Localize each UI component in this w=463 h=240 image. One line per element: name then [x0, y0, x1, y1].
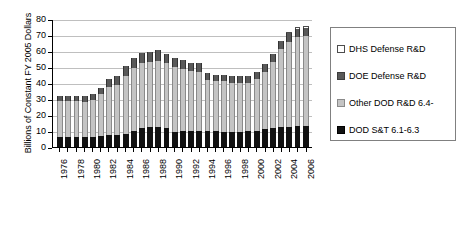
x-label-slot	[113, 153, 121, 201]
x-label-slot	[228, 153, 236, 201]
stacked-bar[interactable]	[172, 58, 178, 147]
stacked-bar[interactable]	[147, 52, 153, 147]
bar-slot	[72, 20, 80, 147]
legend-label: DHS Defense R&D	[349, 44, 426, 54]
stacked-bar[interactable]	[188, 63, 194, 147]
x-label-slot: 1992	[187, 153, 195, 201]
x-label-slot: 2006	[302, 153, 310, 201]
bar-segment	[295, 29, 301, 37]
legend-item[interactable]: DHS Defense R&D	[337, 35, 455, 62]
y-tick-mark	[48, 52, 52, 53]
stacked-bar[interactable]	[303, 26, 309, 147]
bar-segment	[205, 73, 211, 80]
bar-segment	[205, 80, 211, 131]
bar-segment	[155, 127, 161, 147]
bar-segment	[123, 76, 129, 134]
stacked-bar[interactable]	[90, 94, 96, 147]
stacked-bar[interactable]	[114, 76, 120, 147]
stacked-bar[interactable]	[74, 96, 80, 148]
bar-segment	[221, 132, 227, 147]
bar-segment	[147, 62, 153, 127]
bar-segment	[90, 100, 96, 137]
stacked-bar[interactable]	[131, 58, 137, 147]
stacked-bar[interactable]	[237, 76, 243, 147]
stacked-bar[interactable]	[57, 96, 63, 147]
bar-slot	[253, 20, 261, 147]
stacked-bar[interactable]	[213, 75, 219, 147]
x-label-slot: 1990	[170, 153, 178, 201]
stacked-bar[interactable]	[82, 96, 88, 147]
x-label-slot: 1986	[137, 153, 145, 201]
legend-item[interactable]: Other DOD R&D 6.4-	[337, 89, 455, 116]
y-tick-label: 0	[24, 143, 46, 152]
y-tick-mark	[48, 116, 52, 117]
legend-label: Other DOD R&D 6.4-	[349, 98, 434, 108]
stacked-bar[interactable]	[180, 60, 186, 147]
x-label-slot: 1976	[55, 153, 63, 201]
stacked-bar[interactable]	[106, 79, 112, 147]
stacked-bar[interactable]	[155, 50, 161, 147]
chart-legend: DHS Defense R&DDOE Defense R&DOther DOD …	[330, 27, 456, 141]
bar-segment	[147, 127, 153, 147]
stacked-bar[interactable]	[164, 54, 170, 147]
bar-segment	[139, 128, 145, 147]
y-tick-mark	[48, 68, 52, 69]
legend-swatch-icon	[337, 126, 345, 134]
bar-segment	[82, 102, 88, 138]
bar-segment	[147, 52, 153, 62]
bar-segment	[180, 60, 186, 69]
x-label-slot	[178, 153, 186, 201]
bar-segment	[229, 132, 235, 147]
bar-segment	[172, 67, 178, 132]
stacked-bar[interactable]	[221, 75, 227, 147]
stacked-bar[interactable]	[295, 27, 301, 147]
bar-segment	[196, 63, 202, 72]
bar-segment	[286, 42, 292, 127]
y-tick-label: 30	[24, 95, 46, 104]
stacked-bar[interactable]	[196, 63, 202, 147]
bar-segment	[286, 127, 292, 147]
bar-segment	[262, 72, 268, 130]
stacked-bar[interactable]	[98, 88, 104, 148]
x-label-slot	[96, 153, 104, 201]
bar-segment	[237, 83, 243, 132]
x-label-slot: 1996	[219, 153, 227, 201]
bar-segment	[98, 136, 104, 147]
bar-segment	[82, 137, 88, 147]
stacked-bar[interactable]	[270, 54, 276, 147]
y-tick-mark	[48, 20, 52, 21]
bar-segment	[114, 76, 120, 85]
stacked-bar[interactable]	[286, 32, 292, 147]
legend-item[interactable]: DOD S&T 6.1-6.3	[337, 116, 455, 143]
stacked-bar[interactable]	[139, 53, 145, 147]
stacked-bar[interactable]	[254, 72, 260, 147]
stacked-bar[interactable]	[229, 76, 235, 147]
x-label-slot	[195, 153, 203, 201]
stacked-bar[interactable]	[262, 64, 268, 147]
legend-item[interactable]: DOE Defense R&D	[337, 62, 455, 89]
bar-segment	[254, 131, 260, 147]
bar-slot	[154, 20, 162, 147]
stacked-bar[interactable]	[123, 66, 129, 147]
bar-group	[53, 20, 312, 147]
bar-slot	[203, 20, 211, 147]
bar-segment	[295, 126, 301, 147]
x-label-slot	[80, 153, 88, 201]
stacked-bar[interactable]	[278, 41, 284, 147]
x-label-slot	[277, 153, 285, 201]
bar-slot	[56, 20, 64, 147]
bar-segment	[270, 62, 276, 128]
stacked-bar[interactable]	[205, 73, 211, 147]
bar-segment	[164, 54, 170, 63]
bar-segment	[90, 137, 96, 147]
bar-slot	[228, 20, 236, 147]
bar-segment	[123, 66, 129, 76]
bar-segment	[270, 128, 276, 147]
stacked-bar[interactable]	[245, 76, 251, 147]
bar-segment	[229, 76, 235, 83]
y-tick-label: 40	[24, 79, 46, 88]
bar-segment	[106, 87, 112, 135]
y-tick-label: 70	[24, 31, 46, 40]
y-tick-mark	[48, 132, 52, 133]
stacked-bar[interactable]	[65, 96, 71, 147]
